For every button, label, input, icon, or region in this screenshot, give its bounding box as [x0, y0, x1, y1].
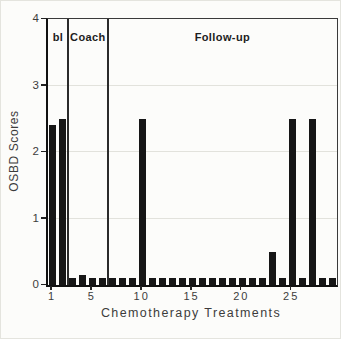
- bar-treatment-3: [69, 278, 76, 285]
- bar-treatment-6: [99, 278, 106, 285]
- bar-treatment-11: [149, 278, 156, 285]
- y-tick-2: [41, 151, 46, 153]
- phase-label-follow-up: Follow-up: [195, 31, 251, 43]
- bar-treatment-5: [89, 278, 96, 285]
- x-tick-label-10: 10: [134, 290, 150, 302]
- bar-treatment-28: [319, 278, 326, 285]
- x-tick-label-25: 25: [283, 290, 299, 302]
- phase-label-coach: Coach: [70, 31, 106, 43]
- x-tick-label-1: 1: [48, 290, 56, 302]
- bar-treatment-12: [159, 278, 166, 285]
- bar-treatment-13: [169, 278, 176, 285]
- bar-treatment-20: [239, 278, 246, 285]
- osbd-bar-chart: OSBD Scores blCoachFollow-up 01234151015…: [0, 0, 341, 339]
- x-tick-label-15: 15: [183, 290, 199, 302]
- bar-treatment-10: [139, 119, 146, 285]
- bar-treatment-7: [109, 278, 116, 285]
- bar-treatment-22: [259, 278, 266, 285]
- y-tick-label-0: 0: [15, 278, 39, 290]
- y-tick-4: [41, 18, 46, 20]
- y-tick-3: [41, 84, 46, 86]
- bar-treatment-14: [179, 278, 186, 285]
- bar-treatment-16: [199, 278, 206, 285]
- x-tick-label-20: 20: [233, 290, 249, 302]
- bar-treatment-19: [229, 278, 236, 285]
- gridline-y-3: [48, 85, 337, 86]
- bar-treatment-29: [329, 278, 336, 285]
- bar-treatment-4: [79, 275, 86, 285]
- bar-treatment-21: [249, 278, 256, 285]
- bar-treatment-2: [59, 119, 66, 285]
- bar-treatment-17: [209, 278, 216, 285]
- bar-treatment-27: [309, 119, 316, 285]
- y-tick-label-3: 3: [15, 79, 39, 91]
- bar-treatment-24: [279, 278, 286, 285]
- y-tick-label-1: 1: [15, 212, 39, 224]
- bar-treatment-23: [269, 252, 276, 285]
- phase-separator-1: [67, 19, 69, 285]
- bar-treatment-18: [219, 278, 226, 285]
- phase-label-bl: bl: [53, 31, 64, 43]
- y-tick-1: [41, 217, 46, 219]
- y-tick-label-4: 4: [15, 12, 39, 24]
- x-axis-title: Chemotherapy Treatments: [101, 306, 281, 320]
- phase-separator-2: [107, 19, 109, 285]
- bar-treatment-25: [289, 119, 296, 285]
- y-tick-label-2: 2: [15, 145, 39, 157]
- bar-treatment-15: [189, 278, 196, 285]
- y-tick-0: [41, 284, 46, 286]
- bar-treatment-26: [299, 278, 306, 285]
- x-tick-label-5: 5: [88, 290, 96, 302]
- bar-treatment-1: [49, 125, 56, 285]
- plot-area: blCoachFollow-up: [46, 18, 338, 287]
- bar-treatment-8: [119, 278, 126, 285]
- bar-treatment-9: [129, 278, 136, 285]
